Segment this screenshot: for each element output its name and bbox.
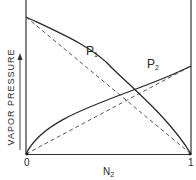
p2-label-sub: 2 <box>155 64 159 71</box>
chart-canvas <box>0 0 196 180</box>
x-tick-0: 0 <box>24 158 30 168</box>
end-point <box>189 153 192 156</box>
p1-label-main: P <box>86 44 94 58</box>
p2-label: P2 <box>147 58 159 71</box>
p1-label: P1 <box>86 45 98 58</box>
x-axis-label-sub: 2 <box>110 171 114 178</box>
x-tick-1: 1 <box>188 158 194 168</box>
y-arrow-head-icon <box>18 53 23 60</box>
origin-point <box>26 153 29 156</box>
p1-ideal-line <box>26 17 191 154</box>
y-axis-label: VAPOR PRESSURE <box>6 42 16 152</box>
x-axis-label: N2 <box>103 167 114 178</box>
p2-label-main: P <box>147 57 155 71</box>
p1-label-sub: 1 <box>94 51 98 58</box>
p2-ideal-line <box>26 66 191 154</box>
